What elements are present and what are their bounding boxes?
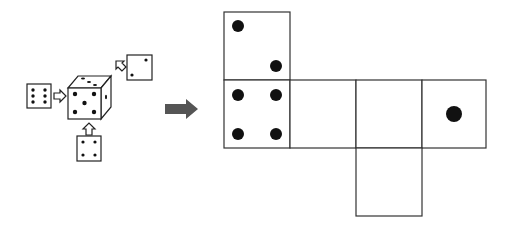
view-arrow-bottom [83, 123, 95, 135]
view-die-four [77, 136, 101, 161]
unfold-arrow-icon [165, 99, 198, 119]
net-face-bottom [356, 148, 422, 216]
view-arrow-topright [116, 61, 126, 71]
dice-net [224, 12, 486, 216]
view-arrow-left [54, 90, 66, 102]
view-die-two [127, 55, 152, 80]
net-face-row-2 [290, 80, 356, 148]
net-face-row-3 [356, 80, 422, 148]
cube [68, 76, 111, 119]
view-die-six [27, 84, 51, 108]
dice-diagram [0, 0, 512, 226]
